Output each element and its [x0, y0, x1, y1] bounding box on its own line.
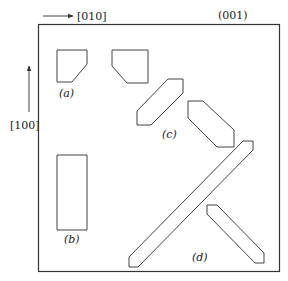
label-c: (c) — [162, 128, 177, 141]
plane-001-label: (001) — [218, 9, 248, 22]
precipitate-shape-b — [57, 155, 87, 230]
precipitate-shape-a — [57, 50, 87, 82]
precipitate-shape-c3 — [188, 101, 234, 147]
label-d: (d) — [192, 251, 208, 264]
crystal-orientation-diagram: [010] (001) [100] (a) (b) (c) (d) — [0, 0, 288, 281]
precipitate-shape-d1 — [129, 141, 253, 267]
precipitate-shape-d2 — [207, 205, 264, 263]
label-a: (a) — [59, 87, 74, 100]
precipitate-shape-c2 — [137, 79, 183, 125]
axis-100-label: [100] — [10, 119, 40, 132]
precipitate-shape-c1 — [112, 50, 148, 83]
axis-010-label: [010] — [77, 10, 107, 23]
label-b: (b) — [64, 233, 80, 246]
